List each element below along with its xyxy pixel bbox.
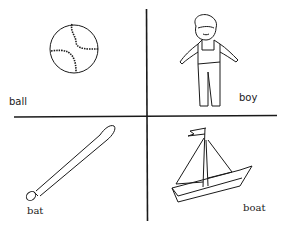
boat-icon [172,128,252,202]
label-boat: boat [243,203,265,213]
divider-lines [14,9,277,221]
label-boy: boy [239,93,257,103]
picture-card-grid: ball boy bat boat [0,0,287,227]
boy-icon [180,15,238,106]
ball-icon [50,24,98,73]
label-ball: ball [9,97,27,107]
label-bat: bat [27,206,43,216]
bat-icon [25,126,115,203]
drawings [0,0,287,227]
